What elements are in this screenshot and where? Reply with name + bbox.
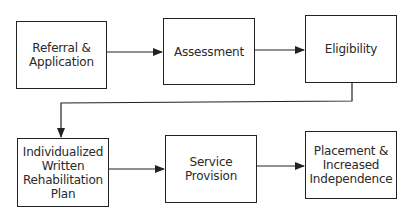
- node-label: Referral & Application: [29, 41, 94, 69]
- node-label: Individualized Written Rehabilitation Pl…: [23, 145, 103, 201]
- node-eligibility: Eligibility: [305, 15, 397, 83]
- node-label: Service Provision: [185, 155, 237, 183]
- node-referral-application: Referral & Application: [16, 21, 107, 89]
- node-iwrp: Individualized Written Rehabilitation Pl…: [17, 138, 109, 207]
- node-label: Eligibility: [325, 42, 377, 56]
- arrow-eligibility-to-iwrp: [61, 82, 352, 137]
- node-placement-independence: Placement & Increased Independence: [305, 131, 397, 199]
- node-label: Assessment: [174, 45, 244, 59]
- node-label: Placement & Increased Independence: [310, 144, 393, 186]
- node-service-provision: Service Provision: [165, 135, 257, 203]
- node-assessment: Assessment: [163, 18, 255, 85]
